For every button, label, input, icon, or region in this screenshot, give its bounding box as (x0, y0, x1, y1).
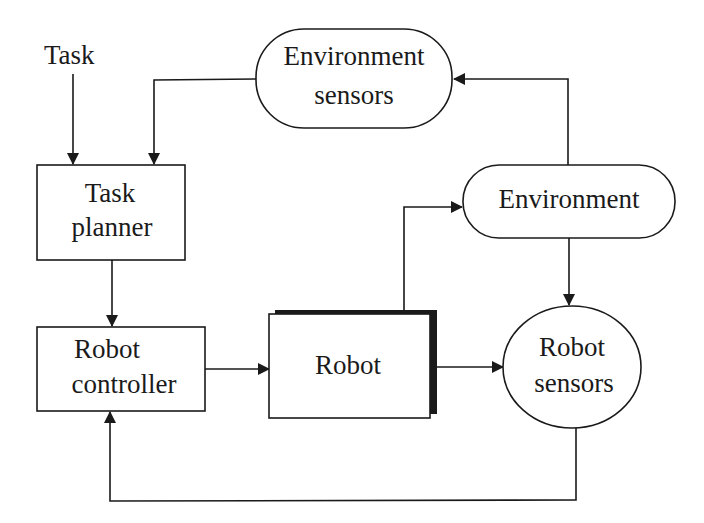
robot-sensors-label-line2: sensors (534, 368, 614, 398)
robot-controller-label-line2: controller (72, 369, 177, 399)
node-robot-controller: Robot controller (37, 327, 205, 411)
task-input-label: Task (44, 40, 95, 70)
robot-controller-label-line1: Robot (74, 334, 141, 364)
node-environment-sensors: Environment sensors (256, 29, 452, 128)
node-task-planner: Task planner (37, 165, 185, 260)
task-planner-label-line2: planner (72, 212, 153, 242)
arrow-environment-to-envsensors (454, 79, 568, 165)
robot-sensors-label-line1: Robot (539, 332, 606, 362)
node-environment: Environment (463, 165, 675, 238)
environment-label: Environment (499, 184, 640, 214)
node-robot-sensors: Robot sensors (503, 306, 641, 428)
robot-label: Robot (315, 350, 382, 380)
arrow-robot-to-environment (404, 207, 462, 310)
environment-sensors-label-line2: sensors (314, 80, 394, 110)
arrow-envsensors-to-planner (154, 79, 256, 164)
arrow-robotsensors-to-controller (110, 412, 576, 501)
node-robot: Robot (269, 310, 437, 418)
task-planner-label-line1: Task (85, 178, 136, 208)
environment-sensors-label-line1: Environment (284, 41, 425, 71)
robot-control-diagram: Task Environment sensors Task planner Ro… (0, 0, 704, 523)
